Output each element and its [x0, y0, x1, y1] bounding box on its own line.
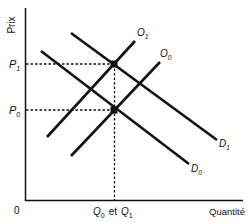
- supply-demand-diagram: Prix P1 P0 0 Q0etQ1 Quantité O1 O0 D1 D0: [0, 0, 251, 222]
- d0-label: D0: [191, 163, 202, 176]
- y-axis-label: Prix: [6, 16, 17, 33]
- p0-label: P0: [9, 104, 20, 118]
- equilibrium-point-0: [111, 107, 118, 114]
- equilibrium-point-1: [111, 61, 118, 68]
- o1-label: O1: [137, 27, 149, 40]
- o0-label: O0: [160, 48, 172, 61]
- x-axis-label: Quantité: [209, 206, 245, 217]
- quantity-q0-q1-label: Q0etQ1: [93, 206, 133, 219]
- p1-label: P1: [9, 58, 20, 72]
- d1-label: D1: [219, 138, 230, 151]
- origin-label: 0: [14, 205, 20, 216]
- supply-curve-o1: [47, 41, 135, 137]
